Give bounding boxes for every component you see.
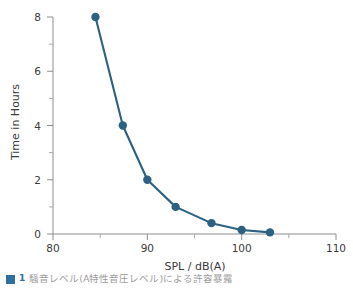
- caption-number: 1: [19, 272, 25, 285]
- line-chart: Time in Hours SPL / dB(A) 0 2 4 6 8: [0, 0, 353, 289]
- data-point: [266, 228, 274, 236]
- y-tick-label-2: 2: [34, 174, 41, 186]
- y-tick-label-8: 8: [34, 11, 41, 23]
- x-tick-label-100: 100: [232, 242, 252, 254]
- y-tick-label-0: 0: [34, 228, 41, 240]
- y-axis-title: Time in Hours: [9, 84, 22, 161]
- data-point: [171, 203, 179, 211]
- x-tick-label-80: 80: [46, 242, 59, 254]
- x-tick-label-110: 110: [326, 242, 346, 254]
- caption-marker-icon: [6, 275, 15, 284]
- x-ticks-minor: [100, 234, 289, 238]
- caption-text: 騒音レベル(A特性音圧レベル)による許容暴露: [29, 272, 353, 285]
- figure-caption: 1 騒音レベル(A特性音圧レベル)による許容暴露: [0, 272, 353, 289]
- series-markers: [91, 13, 274, 237]
- data-point: [237, 226, 245, 234]
- data-point: [143, 176, 151, 184]
- data-point: [91, 13, 99, 21]
- x-tick-label-90: 90: [141, 242, 154, 254]
- data-point: [119, 121, 127, 129]
- figure-container: Time in Hours SPL / dB(A) 0 2 4 6 8: [0, 0, 353, 289]
- y-ticks-major: [47, 17, 53, 234]
- y-tick-label-6: 6: [34, 65, 41, 77]
- data-point: [207, 219, 215, 227]
- y-tick-label-4: 4: [34, 120, 41, 132]
